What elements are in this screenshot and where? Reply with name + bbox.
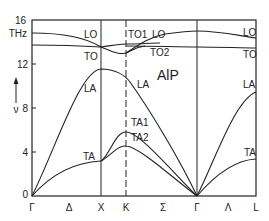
- label-ta-right: TA: [244, 147, 256, 158]
- material-label: AlP: [157, 67, 179, 83]
- label-to1: TO1: [128, 29, 148, 40]
- x-label-lambda: Λ: [225, 202, 232, 213]
- x-label-K: K: [123, 202, 130, 213]
- y-axis-symbol: ν: [14, 104, 19, 115]
- label-lo-mid: LO: [152, 29, 166, 40]
- ta1-branch: [101, 132, 197, 196]
- label-to-right: TO: [243, 49, 257, 60]
- dispersion-curves: [32, 31, 256, 196]
- ta2-branch: [101, 146, 197, 196]
- y-unit-label: THz: [9, 28, 27, 39]
- la-gamma-l: [197, 92, 256, 196]
- y-tick-12: 12: [17, 59, 29, 70]
- phonon-dispersion-chart: 16 THz 12 8 4 0 ν Γ Δ X K Σ Γ Λ L: [0, 0, 269, 221]
- label-la-mid: LA: [137, 79, 150, 90]
- label-la-right: LA: [243, 79, 256, 90]
- x-label-gamma: Γ: [29, 202, 35, 213]
- label-ta-left: TA: [83, 151, 95, 162]
- to-gamma-x: [32, 45, 101, 47]
- label-to-left: TO: [84, 51, 98, 62]
- label-lo-left: LO: [84, 29, 98, 40]
- x-label-sigma: Σ: [160, 202, 166, 213]
- y-tick-4: 4: [22, 147, 28, 158]
- y-tick-16: 16: [15, 15, 27, 26]
- x-label-X: X: [98, 202, 105, 213]
- label-la-left: LA: [84, 83, 97, 94]
- y-tick-0: 0: [22, 189, 28, 200]
- label-ta1: TA1: [131, 117, 149, 128]
- x-label-gamma2: Γ: [194, 202, 200, 213]
- to-gamma-l: [197, 47, 256, 48]
- label-ta2: TA2: [131, 132, 149, 143]
- x-label-L: L: [253, 202, 259, 213]
- arrow-head-icon: [14, 77, 19, 84]
- label-lo-right: LO: [243, 27, 257, 38]
- x-label-delta: Δ: [66, 202, 73, 213]
- y-tick-8: 8: [22, 103, 28, 114]
- label-to2: TO2: [150, 47, 170, 58]
- to2-x-k: [101, 46, 145, 54]
- ta-gamma-x: [32, 161, 101, 196]
